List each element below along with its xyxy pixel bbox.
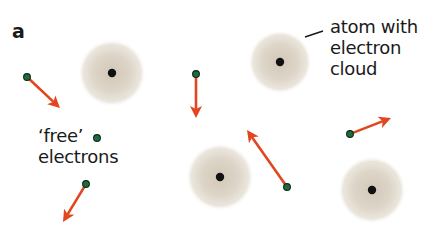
atom [186,143,254,211]
atom-label-line-3: cloud [330,58,418,79]
atom [78,39,146,107]
velocity-arrow-icon [63,187,84,222]
atom-label-line-1: atom with [330,16,418,37]
diagram-canvas: a atom with electron cloud ‘free’ electr… [0,0,442,248]
free-label-line-1: ‘free’ [38,125,118,146]
atom-with-electron-cloud-label: atom with electron cloud [330,16,418,79]
nucleus-icon [108,69,116,77]
atom [338,156,406,224]
free-electron-icon [193,71,200,78]
panel-label: a [12,20,25,42]
nucleus-icon [276,58,284,66]
free-label-line-2: electrons [38,146,118,167]
velocity-arrow-icon [29,79,60,108]
velocity-arrow-icon [353,117,391,133]
free-electrons-label: ‘free’ electrons [38,125,118,167]
atom [248,30,312,94]
nucleus-icon [368,186,376,194]
atom-callout-line [305,31,323,37]
free-electron-icon [83,181,90,188]
free-electron-icon [24,74,31,81]
velocity-arrow-icon [190,77,202,118]
free-electron-icon [284,184,291,191]
atom-label-line-2: electron [330,37,418,58]
nucleus-icon [216,173,224,181]
free-electron-icon [347,131,354,138]
